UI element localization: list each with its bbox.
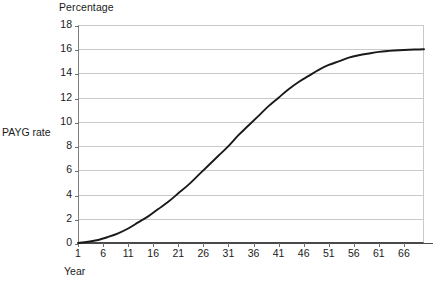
payg-rate-line [78,49,424,243]
series-layer [0,0,437,284]
payg-rate-chart: Percentage PAYG rate Year 02468101214161… [0,0,437,284]
